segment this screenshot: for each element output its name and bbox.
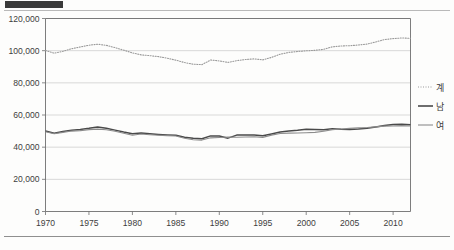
- tickmarks-group: [42, 19, 393, 216]
- gridlines-group: [46, 19, 411, 180]
- x-tick-label: 2005: [340, 218, 359, 228]
- header-marker-block: [5, 1, 63, 8]
- y-tick-label: 40,000: [13, 142, 40, 152]
- footer-divider: [4, 236, 450, 237]
- x-tick-label: 1970: [36, 218, 55, 228]
- y-tick-label: 60,000: [13, 110, 40, 120]
- y-tick-label: 120,000: [8, 14, 39, 24]
- header-strip: [0, 0, 454, 11]
- y-axis-tick-labels: 020,00040,00060,00080,000100,000120,000: [8, 14, 39, 217]
- x-tick-label: 2010: [384, 218, 403, 228]
- y-tick-label: 0: [35, 207, 40, 217]
- series-line-계: [46, 38, 411, 65]
- legend-label-남: 남: [436, 102, 444, 112]
- y-tick-label: 80,000: [13, 78, 40, 88]
- data-series-group: [46, 38, 411, 140]
- x-axis-tick-labels: 197019751980198519901995200020052010: [36, 218, 403, 228]
- line-chart-figure: 020,00040,00060,00080,000100,000120,000 …: [0, 11, 454, 233]
- y-tick-label: 20,000: [13, 174, 40, 184]
- page-root: 020,00040,00060,00080,000100,000120,000 …: [0, 0, 454, 250]
- x-tick-label: 1985: [166, 218, 185, 228]
- x-tick-label: 1980: [123, 218, 142, 228]
- chart-canvas: 020,00040,00060,00080,000100,000120,000 …: [0, 11, 454, 233]
- y-tick-label: 100,000: [8, 46, 39, 56]
- x-tick-label: 1990: [210, 218, 229, 228]
- x-tick-label: 1975: [79, 218, 98, 228]
- x-tick-label: 1995: [253, 218, 272, 228]
- legend-label-여: 여: [436, 120, 444, 131]
- x-tick-label: 2000: [297, 218, 316, 228]
- chart-legend: 계남여: [418, 82, 444, 131]
- legend-label-계: 계: [436, 82, 444, 93]
